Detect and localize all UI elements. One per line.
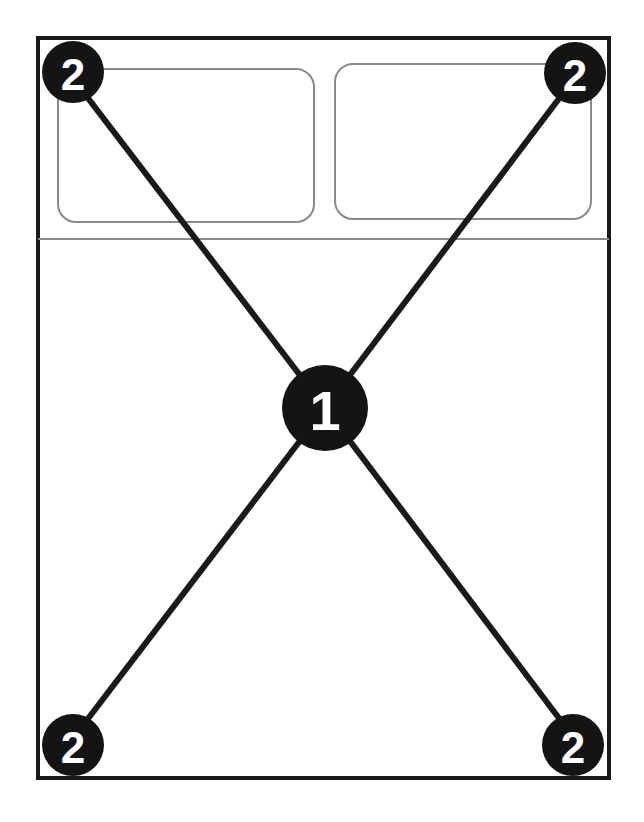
callout-marker-top-right: 2 bbox=[544, 42, 606, 104]
figure-container: 2 2 2 2 1 bbox=[0, 0, 644, 822]
callout-number: 2 bbox=[561, 723, 585, 772]
callout-number: 2 bbox=[563, 51, 587, 100]
callout-marker-top-left: 2 bbox=[42, 41, 104, 103]
callout-marker-bottom-right: 2 bbox=[542, 714, 604, 776]
callout-number: 2 bbox=[61, 723, 85, 772]
callout-marker-center: 1 bbox=[282, 365, 368, 451]
annotated-diagram: 2 2 2 2 1 bbox=[0, 0, 644, 822]
callout-marker-bottom-left: 2 bbox=[42, 714, 104, 776]
callout-number: 1 bbox=[309, 379, 340, 442]
callout-number: 2 bbox=[61, 50, 85, 99]
